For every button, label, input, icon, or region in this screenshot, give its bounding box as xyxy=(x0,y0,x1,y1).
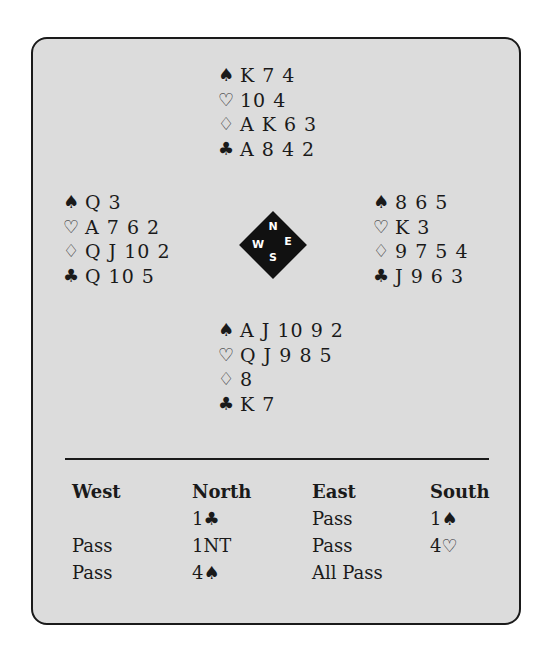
east-hearts: ♡K 3 xyxy=(373,215,468,240)
south-hand: ♠A J 10 9 2 ♡Q J 9 8 5 ♢8 ♣K 7 xyxy=(218,318,344,416)
south-diamonds: ♢8 xyxy=(218,367,344,392)
auction-call: Pass xyxy=(72,532,113,559)
west-diamonds-cards: Q J 10 2 xyxy=(85,239,171,264)
east-diamonds: ♢9 7 5 4 xyxy=(373,239,468,264)
south-spades-cards: A J 10 9 2 xyxy=(240,318,344,343)
auction-header-south: South xyxy=(430,478,490,505)
north-clubs-cards: A 8 4 2 xyxy=(240,137,315,162)
spade-icon: ♠ xyxy=(373,190,395,215)
east-diamonds-cards: 9 7 5 4 xyxy=(395,239,468,264)
auction-header-east: East xyxy=(312,478,356,505)
auction-header-west: West xyxy=(72,478,121,505)
compass-east-label: E xyxy=(282,236,294,247)
club-icon: ♣ xyxy=(373,264,395,289)
divider-line xyxy=(65,458,489,460)
east-spades: ♠8 6 5 xyxy=(373,190,468,215)
compass-west-label: W xyxy=(252,239,264,250)
diamond-icon: ♢ xyxy=(373,239,395,264)
west-hearts: ♡A 7 6 2 xyxy=(63,215,171,240)
club-icon: ♣ xyxy=(218,392,240,417)
north-hearts: ♡10 4 xyxy=(218,88,317,113)
heart-icon: ♡ xyxy=(63,215,85,240)
auction-call: 1♠ xyxy=(430,505,458,532)
diamond-icon: ♢ xyxy=(218,112,240,137)
spade-icon: ♠ xyxy=(218,318,240,343)
south-clubs: ♣K 7 xyxy=(218,392,344,417)
compass-diamond: N W E S xyxy=(243,215,303,275)
north-diamonds-cards: A K 6 3 xyxy=(240,112,317,137)
south-spades: ♠A J 10 9 2 xyxy=(218,318,344,343)
south-hearts: ♡Q J 9 8 5 xyxy=(218,343,344,368)
auction-call: 1♣ xyxy=(192,505,220,532)
east-spades-cards: 8 6 5 xyxy=(395,190,448,215)
north-hearts-cards: 10 4 xyxy=(240,88,286,113)
west-spades: ♠Q 3 xyxy=(63,190,171,215)
club-icon: ♣ xyxy=(218,137,240,162)
spade-icon: ♠ xyxy=(218,63,240,88)
auction-call: Pass xyxy=(72,559,113,586)
east-clubs: ♣J 9 6 3 xyxy=(373,264,468,289)
west-hand: ♠Q 3 ♡A 7 6 2 ♢Q J 10 2 ♣Q 10 5 xyxy=(63,190,171,288)
auction-call: 4♠ xyxy=(192,559,220,586)
heart-icon: ♡ xyxy=(373,215,395,240)
auction-call: All Pass xyxy=(312,559,383,586)
spade-icon: ♠ xyxy=(63,190,85,215)
north-clubs: ♣A 8 4 2 xyxy=(218,137,317,162)
east-clubs-cards: J 9 6 3 xyxy=(395,264,464,289)
compass-south-label: S xyxy=(267,252,279,263)
east-hand: ♠8 6 5 ♡K 3 ♢9 7 5 4 ♣J 9 6 3 xyxy=(373,190,468,288)
west-spades-cards: Q 3 xyxy=(85,190,122,215)
east-hearts-cards: K 3 xyxy=(395,215,430,240)
south-clubs-cards: K 7 xyxy=(240,392,275,417)
auction-call: Pass xyxy=(312,532,353,559)
north-diamonds: ♢A K 6 3 xyxy=(218,112,317,137)
auction-header-north: North xyxy=(192,478,251,505)
heart-icon: ♡ xyxy=(218,343,240,368)
club-icon: ♣ xyxy=(63,264,85,289)
north-spades: ♠K 7 4 xyxy=(218,63,317,88)
compass-north-label: N xyxy=(267,221,279,232)
west-diamonds: ♢Q J 10 2 xyxy=(63,239,171,264)
diamond-icon: ♢ xyxy=(218,367,240,392)
north-spades-cards: K 7 4 xyxy=(240,63,295,88)
west-hearts-cards: A 7 6 2 xyxy=(85,215,160,240)
heart-icon: ♡ xyxy=(218,88,240,113)
south-hearts-cards: Q J 9 8 5 xyxy=(240,343,333,368)
diamond-icon: ♢ xyxy=(63,239,85,264)
west-clubs-cards: Q 10 5 xyxy=(85,264,155,289)
auction-call: Pass xyxy=(312,505,353,532)
north-hand: ♠K 7 4 ♡10 4 ♢A K 6 3 ♣A 8 4 2 xyxy=(218,63,317,161)
west-clubs: ♣Q 10 5 xyxy=(63,264,171,289)
auction-call: 1NT xyxy=(192,532,231,559)
south-diamonds-cards: 8 xyxy=(240,367,253,392)
auction-call: 4♡ xyxy=(430,532,458,559)
